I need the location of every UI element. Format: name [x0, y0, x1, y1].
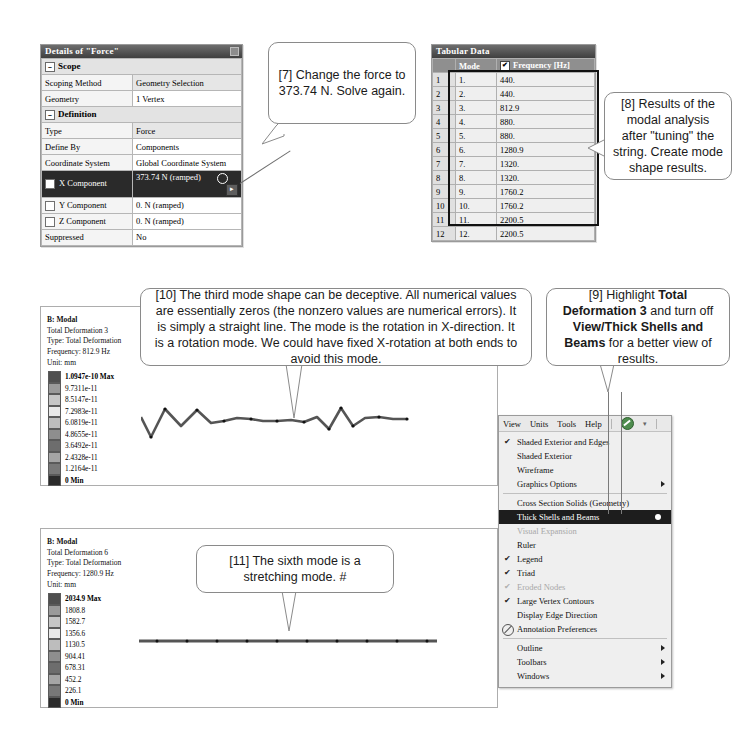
- table-row[interactable]: 33.812.9: [433, 101, 595, 115]
- row-value[interactable]: Geometry Selection: [133, 75, 242, 91]
- menu-item-windows[interactable]: Windows: [499, 669, 671, 683]
- cell-mode: 2.: [456, 87, 497, 101]
- cell-mode: 8.: [456, 171, 497, 185]
- callout-9-part-4: for a better view of results.: [605, 336, 711, 366]
- table-row[interactable]: Coordinate System Global Coordinate Syst…: [42, 155, 242, 171]
- menu-item-wireframe[interactable]: Wireframe: [499, 463, 671, 477]
- checkbox-frequency-column[interactable]: ✔: [500, 61, 510, 71]
- legend-row: 452.2: [48, 674, 101, 686]
- collapse-icon[interactable]: –: [45, 62, 55, 72]
- row-label: Suppressed: [42, 229, 133, 245]
- table-row[interactable]: –Definition: [42, 107, 242, 123]
- row-index: 10: [433, 199, 456, 213]
- table-row[interactable]: –Scope: [42, 59, 242, 75]
- menu-item-visual-expansion: Visual Expansion: [499, 524, 671, 538]
- menu-item-display-edge-direction[interactable]: Display Edge Direction: [499, 608, 671, 622]
- pin-icon[interactable]: [230, 47, 239, 56]
- menu-item-large-vertex-contours[interactable]: ✔Large Vertex Contours: [499, 594, 671, 608]
- legend-row: 6.0819e-11: [48, 417, 114, 429]
- table-row[interactable]: 1212.2200.5: [433, 227, 595, 241]
- row-value-z-component[interactable]: 0. N (ramped): [133, 213, 242, 229]
- legend-row: 2.4328e-11: [48, 452, 114, 464]
- table-row[interactable]: 1111.2200.5: [433, 213, 595, 227]
- table-row[interactable]: Define By Components: [42, 139, 242, 155]
- menu-item-shaded-exterior[interactable]: Shaded Exterior: [499, 449, 671, 463]
- row-value[interactable]: No: [133, 229, 242, 245]
- table-row[interactable]: 77.1320.: [433, 157, 595, 171]
- table-row[interactable]: 1010.1760.2: [433, 199, 595, 213]
- table-row[interactable]: 11.440.: [433, 73, 595, 87]
- col-header-mode[interactable]: Mode: [456, 59, 497, 73]
- menu-item-cross-section-solids[interactable]: Cross Section Solids (Geometry): [499, 496, 671, 510]
- menu-item-ruler[interactable]: Ruler: [499, 538, 671, 552]
- cursor-dot-icon: [655, 514, 661, 520]
- legend-swatch: [48, 417, 61, 429]
- menubar-item-help[interactable]: Help: [585, 419, 602, 429]
- legend-swatch: [48, 463, 61, 475]
- callout-9-text: [9] Highlight Total Deformation 3 and tu…: [555, 287, 721, 367]
- menu-item-outline[interactable]: Outline: [499, 641, 671, 655]
- legend-row: 4.8655e-11: [48, 429, 114, 441]
- row-label-z-component: Z Component: [42, 213, 133, 229]
- table-row[interactable]: 44.880.: [433, 115, 595, 129]
- legend-swatch: [48, 406, 61, 418]
- menu-separator-2: [503, 638, 667, 639]
- col-header-frequency[interactable]: ✔Frequency [Hz]: [497, 59, 595, 73]
- table-row[interactable]: Geometry 1 Vertex: [42, 91, 242, 107]
- checkbox-z-component[interactable]: [45, 217, 55, 227]
- menu-item-legend[interactable]: ✔Legend: [499, 552, 671, 566]
- menubar-item-tools[interactable]: Tools: [557, 419, 576, 429]
- result-frequency-line: Frequency: 812.9 Hz: [47, 347, 121, 358]
- legend-swatch: [48, 440, 61, 452]
- callout-8-text: [8] Results of the modal analysis after …: [613, 96, 723, 176]
- chevron-down-icon[interactable]: ▾: [643, 420, 647, 428]
- menu-item-shaded-exterior-and-edges[interactable]: ✔Shaded Exterior and Edges: [499, 435, 671, 449]
- table-row[interactable]: Type Force: [42, 123, 242, 139]
- callout-7-text: [7] Change the force to 373.74 N. Solve …: [277, 67, 407, 99]
- solve-icon[interactable]: [621, 417, 634, 430]
- menu-item-graphics-options[interactable]: Graphics Options: [499, 477, 671, 491]
- table-row[interactable]: Scoping Method Geometry Selection: [42, 75, 242, 91]
- tabular-panel-titlebar: Tabular Data: [432, 45, 595, 58]
- check-icon: ✔: [504, 583, 511, 591]
- menu-item-thick-shells-and-beams[interactable]: Thick Shells and Beams: [499, 510, 671, 524]
- details-group-scope[interactable]: –Scope: [42, 59, 242, 75]
- result-title-line: B: Modal: [47, 537, 121, 548]
- menu-item-toolbars[interactable]: Toolbars: [499, 655, 671, 669]
- menu-item-annotation-preferences[interactable]: Annotation Preferences: [499, 622, 671, 636]
- table-row[interactable]: 22.440.: [433, 87, 595, 101]
- table-row[interactable]: 99.1760.2: [433, 185, 595, 199]
- table-row[interactable]: Y Component 0. N (ramped): [42, 197, 242, 213]
- row-value[interactable]: Force: [133, 123, 242, 139]
- table-row[interactable]: 88.1320.: [433, 171, 595, 185]
- callout-11-tail: [278, 589, 304, 635]
- table-row[interactable]: 55.880.: [433, 129, 595, 143]
- table-row[interactable]: Z Component 0. N (ramped): [42, 213, 242, 229]
- row-value[interactable]: Components: [133, 139, 242, 155]
- row-value-x-component[interactable]: 373.74 N (ramped) ▸: [133, 171, 242, 198]
- group-label: Scope: [58, 61, 81, 71]
- table-row[interactable]: Suppressed No: [42, 229, 242, 245]
- legend-label: 1808.8: [65, 606, 85, 615]
- cell-frequency: 1280.9: [497, 143, 595, 157]
- legend-label: 0 Min: [65, 698, 83, 707]
- chevron-right-icon[interactable]: ▸: [226, 184, 238, 196]
- table-row-x-component[interactable]: X Component 373.74 N (ramped) ▸: [42, 171, 242, 198]
- legend-row: 1130.5: [48, 639, 101, 651]
- row-value[interactable]: Global Coordinate System: [133, 155, 242, 171]
- details-group-definition[interactable]: –Definition: [42, 107, 242, 123]
- callout-11-text: [11] The sixth mode is a stretching mode…: [205, 553, 385, 585]
- table-row[interactable]: 66.1280.9: [433, 143, 595, 157]
- legend-label: 452.2: [65, 675, 81, 684]
- checkbox-x-component[interactable]: [45, 179, 55, 189]
- legend-label: 3.6492e-11: [65, 441, 98, 450]
- row-value[interactable]: 1 Vertex: [133, 91, 242, 107]
- menubar-item-view[interactable]: View: [503, 419, 521, 429]
- row-value-y-component[interactable]: 0. N (ramped): [133, 197, 242, 213]
- menu-item-triad[interactable]: ✔Triad: [499, 566, 671, 580]
- menubar-item-units[interactable]: Units: [530, 419, 548, 429]
- details-of-force-panel: Details of "Force" –Scope Scoping Method…: [40, 44, 243, 247]
- legend-swatch: [48, 371, 61, 383]
- collapse-icon[interactable]: –: [45, 110, 55, 120]
- checkbox-y-component[interactable]: [45, 201, 55, 211]
